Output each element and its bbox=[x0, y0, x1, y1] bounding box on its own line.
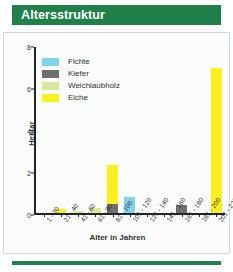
y-axis-tick-label: 2 bbox=[18, 170, 31, 177]
y-axis-tick-mark bbox=[31, 215, 35, 216]
legend-label: Fichte bbox=[68, 57, 90, 66]
legend-item[interactable]: Weichlaubholz bbox=[42, 81, 120, 90]
chart-panel: Hektar 02468 1 - 2021 - 4041 - 6061 - 80… bbox=[3, 32, 230, 254]
chart-legend: FichteKieferWeichlaubholzEiche bbox=[42, 57, 120, 102]
legend-item[interactable]: Eiche bbox=[42, 93, 120, 102]
y-axis-tick-mark bbox=[31, 131, 35, 132]
legend-item[interactable]: Fichte bbox=[42, 57, 120, 66]
y-axis-tick-label: 0 bbox=[18, 212, 31, 219]
legend-swatch-icon bbox=[42, 70, 59, 78]
page-title: Altersstruktur bbox=[12, 8, 105, 22]
x-axis-title: Alter in Jahren bbox=[4, 233, 231, 242]
bar-group[interactable] bbox=[139, 47, 156, 213]
footer-rule bbox=[12, 261, 221, 265]
y-axis-tick-mark bbox=[31, 47, 35, 48]
bar-segment-eiche[interactable] bbox=[107, 165, 118, 203]
legend-item[interactable]: Kiefer bbox=[42, 69, 120, 78]
bar-group[interactable] bbox=[156, 47, 173, 213]
y-axis-tick-label: 8 bbox=[18, 44, 31, 51]
bar-group[interactable] bbox=[190, 47, 207, 213]
legend-swatch-icon bbox=[42, 58, 59, 66]
legend-label: Weichlaubholz bbox=[68, 81, 120, 90]
bar-stack[interactable] bbox=[211, 68, 222, 213]
y-axis-tick-label: 6 bbox=[18, 86, 31, 93]
y-axis-tick-mark bbox=[31, 89, 35, 90]
bar-group[interactable] bbox=[173, 47, 190, 213]
bar-group[interactable] bbox=[208, 47, 225, 213]
legend-label: Eiche bbox=[68, 93, 88, 102]
header-bar: Altersstruktur bbox=[12, 5, 221, 25]
legend-swatch-icon bbox=[42, 94, 59, 102]
y-axis-tick-mark bbox=[31, 173, 35, 174]
legend-label: Kiefer bbox=[68, 69, 89, 78]
bar-segment-eiche[interactable] bbox=[211, 68, 222, 213]
y-axis-tick-label: 4 bbox=[18, 128, 31, 135]
legend-swatch-icon bbox=[42, 82, 59, 90]
bar-group[interactable] bbox=[121, 47, 138, 213]
